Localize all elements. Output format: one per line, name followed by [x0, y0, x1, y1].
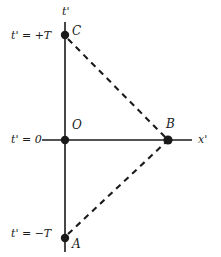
event-point-a [61, 234, 69, 242]
tick-label-t-plus-T: t' = +T [11, 30, 51, 41]
tick-label-t-minus-T: t' = −T [11, 228, 51, 239]
event-point-c [61, 31, 69, 39]
event-point-o [61, 136, 69, 144]
tick-label-t-zero: t' = 0 [11, 134, 42, 145]
point-label-o: O [72, 119, 82, 131]
event-point-b [163, 135, 172, 144]
point-label-b: B [166, 118, 175, 130]
t-prime-axis-label: t' [62, 6, 69, 17]
dashed-line-a-to-b [68, 142, 166, 234]
spacetime-diagram-figure: t' x' t' = +T t' = 0 t' = −T C O B A [0, 0, 221, 257]
dashed-line-c-to-b [68, 39, 166, 138]
point-label-c: C [72, 25, 81, 37]
point-label-a: A [72, 238, 81, 250]
x-prime-axis-label: x' [198, 134, 207, 145]
